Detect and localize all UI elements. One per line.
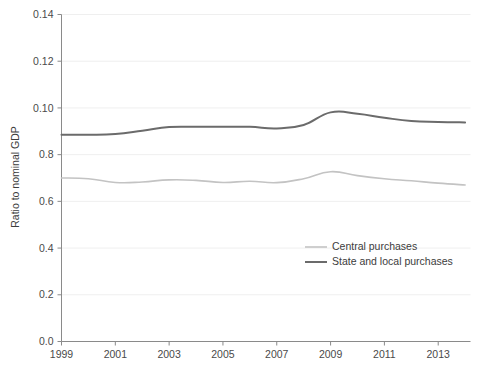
- x-tick-label: 2011: [373, 348, 396, 360]
- series-line-2: [62, 111, 466, 134]
- x-axis-group: 19992001200320052007200920112013: [50, 342, 471, 361]
- x-tick-label: 1999: [50, 348, 74, 360]
- x-tick-label: 2013: [427, 348, 451, 360]
- x-tick-label: 2003: [157, 348, 181, 360]
- line-chart: 0.140.120.100.80.60.40.20.0 199920012003…: [0, 0, 487, 381]
- y-tick-label: 0.6: [39, 195, 54, 207]
- series-line-1: [62, 172, 466, 185]
- x-tick-label: 2007: [265, 348, 289, 360]
- x-tick-label: 2005: [211, 348, 235, 360]
- y-tick-label: 0.10: [33, 102, 54, 114]
- y-tick-label: 0.12: [33, 55, 54, 67]
- chart-container: 0.140.120.100.80.60.40.20.0 199920012003…: [0, 0, 487, 381]
- y-axis-group: 0.140.120.100.80.60.40.20.0: [33, 8, 61, 347]
- x-tick-label: 2009: [319, 348, 343, 360]
- chart-legend: Central purchasesState and local purchas…: [305, 240, 453, 267]
- y-tick-label: 0.4: [39, 242, 54, 254]
- x-tick-label: 2001: [104, 348, 128, 360]
- y-tick-label: 0.14: [33, 8, 54, 20]
- legend-label-2: State and local purchases: [332, 255, 453, 267]
- gridlines-group: [62, 15, 471, 295]
- series-group: [62, 111, 466, 185]
- y-axis-title: Ratio to nominal GDP: [9, 126, 21, 228]
- y-tick-label: 0.0: [39, 335, 54, 347]
- y-tick-label: 0.2: [39, 288, 54, 300]
- legend-label-1: Central purchases: [332, 240, 417, 252]
- y-tick-label: 0.8: [39, 148, 54, 160]
